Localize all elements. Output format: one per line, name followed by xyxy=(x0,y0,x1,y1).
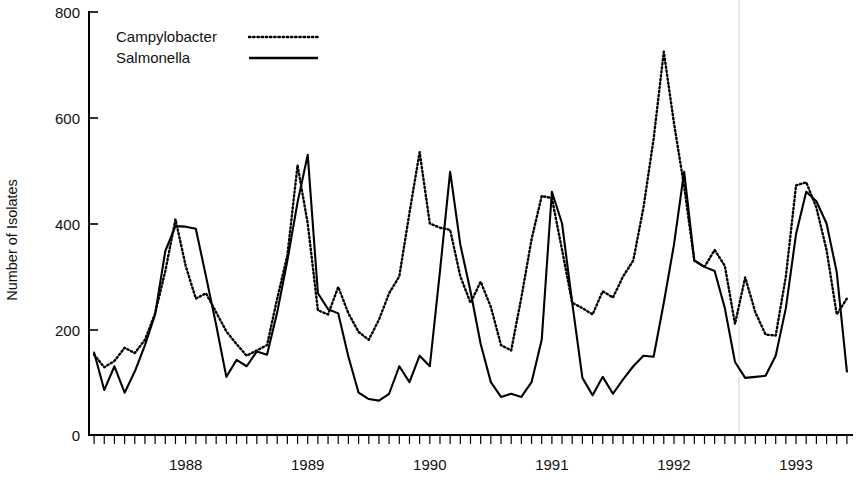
x-tick-label-1991: 1991 xyxy=(535,456,568,473)
x-tick-label-1993: 1993 xyxy=(779,456,812,473)
chart-figure: Number of Isolates 800 600 400 200 0 198… xyxy=(0,0,858,480)
y-tick-label-600: 600 xyxy=(55,110,80,127)
y-axis-title: Number of Isolates xyxy=(4,179,20,301)
line-chart: Number of Isolates 800 600 400 200 0 198… xyxy=(0,0,858,480)
legend-label-campylobacter: Campylobacter xyxy=(116,28,217,45)
chart-legend: Campylobacter Salmonella xyxy=(116,28,318,66)
x-axis-tick-group xyxy=(94,435,847,444)
x-tick-label-1992: 1992 xyxy=(657,456,690,473)
x-axis-label-group: 198819891990199119921993 xyxy=(169,456,813,473)
y-tick-label-200: 200 xyxy=(55,322,80,339)
y-tick-label-400: 400 xyxy=(55,216,80,233)
series-line-salmonella xyxy=(94,155,847,401)
y-tick-label-800: 800 xyxy=(55,4,80,21)
x-tick-label-1988: 1988 xyxy=(169,456,202,473)
y-tick-label-0: 0 xyxy=(72,427,80,444)
series-line-campylobacter xyxy=(94,52,847,368)
legend-label-salmonella: Salmonella xyxy=(116,49,191,66)
x-tick-label-1989: 1989 xyxy=(291,456,324,473)
x-tick-label-1990: 1990 xyxy=(413,456,446,473)
